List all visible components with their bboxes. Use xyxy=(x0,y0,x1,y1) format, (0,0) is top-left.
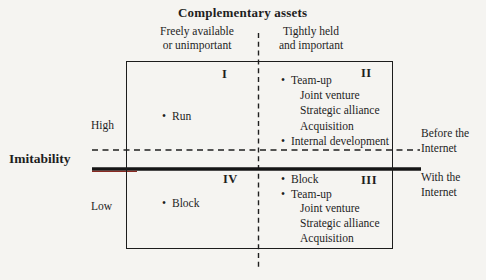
strategy-label: Block xyxy=(172,197,199,209)
quadrant-2-list: •Team-up Joint venture Strategic allianc… xyxy=(281,73,389,149)
quadrant-3-list: •Block •Team-up Joint venture Strategic … xyxy=(281,172,380,246)
column-left-line1: Freely available xyxy=(148,24,246,38)
list-item: •Team-up xyxy=(281,187,380,202)
quadrant-4-numeral: IV xyxy=(223,172,238,187)
list-item: •Internal development xyxy=(281,134,389,149)
y-axis-title: Imitability xyxy=(9,151,71,167)
before-internet-line1: Before the xyxy=(421,126,469,141)
list-item: Acquisition xyxy=(281,119,389,134)
column-right-line2: and important xyxy=(263,38,359,52)
strategy-label: Internal development xyxy=(291,135,389,147)
strategy-label: Strategic alliance xyxy=(300,217,380,229)
strategy-label: Joint venture xyxy=(300,202,360,214)
strategy-label: Team-up xyxy=(291,74,332,86)
bullet-marker: • xyxy=(162,197,172,209)
x-axis-title: Complementary assets xyxy=(178,5,307,21)
y-axis-low-label: Low xyxy=(91,200,112,212)
before-internet-label: Before the Internet xyxy=(421,126,469,156)
teece-matrix-diagram: Complementary assets Freely available or… xyxy=(0,0,486,280)
strategy-label: Acquisition xyxy=(300,232,354,244)
list-item: Joint venture xyxy=(281,88,389,103)
column-left-heading: Freely available or unimportant xyxy=(148,24,246,52)
bullet-marker: • xyxy=(281,172,291,187)
list-item: Joint venture xyxy=(281,201,380,216)
bullet-marker: • xyxy=(281,187,291,202)
column-right-heading: Tightly held and important xyxy=(263,24,359,52)
strategy-label: Run xyxy=(172,110,191,122)
strategy-label: Strategic alliance xyxy=(300,104,380,116)
list-item: Acquisition xyxy=(281,231,380,246)
y-axis-high-label: High xyxy=(91,119,114,131)
strategy-label: Team-up xyxy=(291,188,332,200)
bullet-marker: • xyxy=(281,73,291,88)
quadrant-1-item-run: •Run xyxy=(162,110,191,122)
strategy-label: Block xyxy=(291,173,318,185)
column-left-line2: or unimportant xyxy=(148,38,246,52)
list-item: Strategic alliance xyxy=(281,216,380,231)
list-item: Strategic alliance xyxy=(281,103,389,118)
quadrant-4-item-block: •Block xyxy=(162,197,199,209)
with-internet-label: With the Internet xyxy=(421,170,460,200)
list-item: •Team-up xyxy=(281,73,389,88)
strategy-label: Joint venture xyxy=(300,89,360,101)
list-item: •Block xyxy=(281,172,380,187)
column-right-line1: Tightly held xyxy=(263,24,359,38)
with-internet-line1: With the xyxy=(421,170,460,185)
quadrant-1-numeral: I xyxy=(222,67,227,82)
bullet-marker: • xyxy=(162,110,172,122)
strategy-label: Acquisition xyxy=(300,120,354,132)
bullet-marker: • xyxy=(281,134,291,149)
with-internet-line2: Internet xyxy=(421,185,460,200)
before-internet-line2: Internet xyxy=(421,141,469,156)
